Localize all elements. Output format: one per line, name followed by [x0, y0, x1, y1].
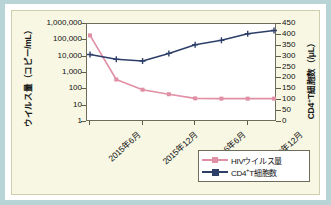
data-point-marker: [167, 92, 171, 96]
right-axis-tick-label: 100: [282, 95, 295, 103]
legend-marker: [212, 169, 219, 176]
data-point-marker: [141, 88, 145, 92]
right-axis-tick-label: 400: [282, 30, 295, 38]
data-point-marker: [87, 51, 93, 57]
data-point-marker: [192, 42, 198, 48]
legend-swatch-hiv: [202, 155, 228, 165]
legend-item-cd4: CD4+T細胞数: [202, 166, 305, 178]
data-point-marker: [113, 56, 119, 62]
right-axis-tick-label: 0: [282, 117, 286, 125]
legend-item-hiv: HIVウイルス量: [202, 154, 305, 166]
right-axis-tick-label: 350: [282, 41, 295, 49]
legend-label-hiv: HIVウイルス量: [231, 155, 282, 166]
data-point-marker: [193, 96, 197, 100]
data-point-marker: [88, 33, 92, 37]
right-axis-tick-label: 200: [282, 73, 295, 81]
screenshot-root: ウイルス量（コピー/mL） CD4⁺T細胞数（/μL） 1,000,000100…: [0, 0, 331, 205]
right-axis-tick-label: 150: [282, 84, 295, 92]
x-axis-tick-label: 2015年12月: [159, 128, 200, 166]
series-line: [90, 31, 274, 61]
left-axis-tick-label: 100: [69, 84, 82, 92]
series-line: [90, 35, 274, 98]
right-axis-tick-label: 450: [282, 19, 295, 27]
data-point-marker: [140, 58, 146, 64]
left-axis-tick-label: 10,000: [58, 52, 82, 60]
legend: HIVウイルス量 CD4+T細胞数: [198, 150, 310, 182]
plot-area: [86, 23, 276, 121]
data-point-marker: [271, 28, 277, 34]
data-point-marker: [246, 97, 250, 101]
data-point-marker: [114, 78, 118, 82]
legend-marker: [212, 157, 218, 163]
data-point-marker: [219, 97, 223, 101]
data-point-marker: [272, 97, 276, 101]
legend-swatch-cd4: [202, 167, 228, 177]
right-axis-tick-label: 300: [282, 52, 295, 60]
data-point-marker: [166, 50, 172, 56]
left-axis-tick-label: 1,000,000: [46, 19, 82, 27]
x-axis-tick-label: 2015年6月: [105, 128, 142, 163]
right-axis-tick-label: 250: [282, 63, 295, 71]
right-axis-tick-label: 50: [282, 106, 291, 114]
left-axis-tick-label: 1,000: [62, 68, 82, 76]
chart-card: ウイルス量（コピー/mL） CD4⁺T細胞数（/μL） 1,000,000100…: [11, 10, 320, 195]
data-point-marker: [218, 37, 224, 43]
data-point-marker: [245, 31, 251, 37]
left-axis-tick-mark: [81, 121, 86, 122]
legend-label-cd4: CD4+T細胞数: [231, 167, 277, 178]
series-canvas: [87, 24, 277, 122]
left-axis-tick-label: 100,000: [53, 35, 82, 43]
